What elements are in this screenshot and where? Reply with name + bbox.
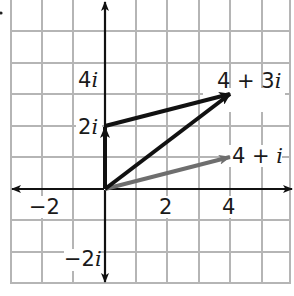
imag-tick-label-neg2i: −2i [64,247,102,271]
complex-plane-diagram: 4i 2i −2i −2 2 4 4 + 3i 4 + i [0,0,294,296]
point-label-4-plus-3i: 4 + 3i [217,69,281,93]
imag-tick-label-2i: 2i [78,115,98,139]
label-knockouts [26,69,285,271]
real-tick-label-neg2: −2 [29,195,60,219]
grid [11,0,290,284]
axes [12,2,292,282]
point-label-4-plus-i: 4 + i [232,144,283,168]
margin-dot [0,11,3,14]
real-tick-label-2: 2 [159,195,172,219]
real-tick-label-4: 4 [222,195,235,219]
vectors [105,94,230,189]
complex-plane-svg: 4i 2i −2i −2 2 4 4 + 3i 4 + i [0,0,294,296]
imag-tick-label-4i: 4i [78,68,98,92]
